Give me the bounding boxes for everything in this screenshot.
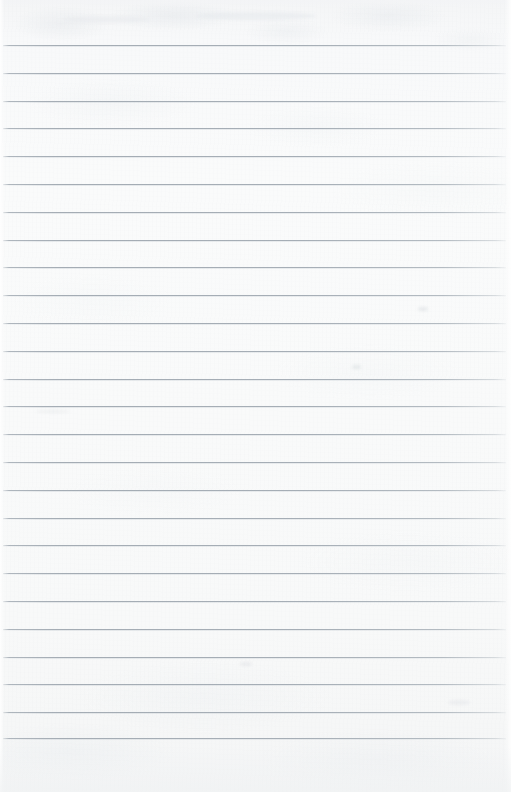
ruled-line [3, 184, 506, 185]
ruled-line [3, 212, 506, 213]
paper-edge-left [0, 0, 4, 792]
ruled-line [3, 434, 506, 435]
ruled-line [3, 490, 506, 491]
ruled-line [3, 156, 506, 157]
ruled-line [3, 684, 506, 685]
ruled-line [3, 379, 506, 380]
paper-edge-bottom [0, 746, 511, 792]
ruled-line [3, 573, 506, 574]
ruled-line [3, 128, 506, 129]
ruled-line [3, 518, 506, 519]
ruled-line [3, 267, 506, 268]
ruled-line [3, 101, 506, 102]
ruled-line [3, 295, 506, 296]
ruled-line [3, 545, 506, 546]
ruled-line [3, 73, 506, 74]
ruled-line [3, 45, 506, 46]
paper-page [0, 0, 511, 792]
ruled-line [3, 462, 506, 463]
ruled-line [3, 240, 506, 241]
ruled-line [3, 406, 506, 407]
paper-edge-top [0, 0, 511, 8]
ruled-line [3, 657, 506, 658]
ruled-line [3, 712, 506, 713]
ruled-line [3, 738, 506, 739]
ruled-line [3, 323, 506, 324]
ruled-line [3, 351, 506, 352]
ruled-line [3, 601, 506, 602]
ruled-line [3, 629, 506, 630]
ruled-lines-group [0, 0, 511, 792]
paper-edge-right [505, 0, 511, 792]
